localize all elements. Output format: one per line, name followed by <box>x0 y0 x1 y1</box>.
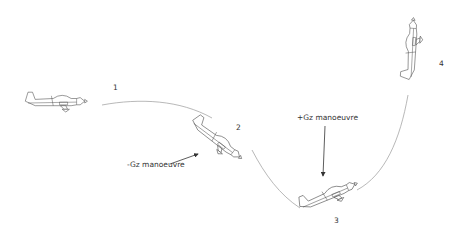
position-label-3: 3 <box>334 216 339 225</box>
flight-path <box>102 101 212 118</box>
aircraft-position-4 <box>400 17 424 80</box>
positive-gz-arrow <box>323 126 325 176</box>
flight-path <box>357 95 408 190</box>
position-label-2: 2 <box>236 123 241 132</box>
positive-gz-label: +Gz manoeuvre <box>297 113 358 122</box>
position-label-1: 1 <box>113 83 118 92</box>
aircraft-position-3 <box>296 175 361 217</box>
gz-manoeuvre-diagram: 1 2 3 4 -Gz manoeuvre +Gz manoeuvre <box>0 0 459 231</box>
position-label-4: 4 <box>439 59 444 68</box>
aircraft-position-1 <box>25 92 87 112</box>
flight-path <box>252 150 300 208</box>
aircraft-position-2 <box>186 113 247 167</box>
